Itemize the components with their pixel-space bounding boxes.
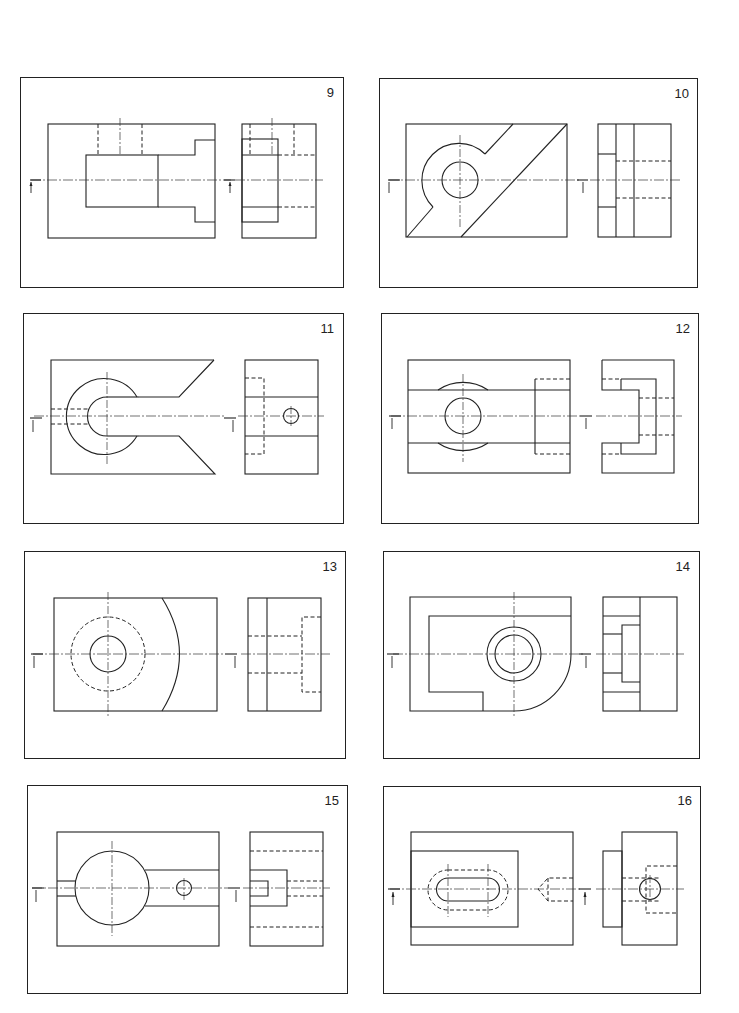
- front-view: [390, 832, 582, 945]
- front-view: [33, 592, 225, 718]
- section-marker-right: [225, 654, 237, 668]
- section-marker-left: [388, 889, 400, 905]
- side-view: [241, 598, 330, 711]
- technical-drawing: [25, 552, 347, 760]
- technical-drawing: [21, 78, 345, 289]
- section-marker-left: [388, 180, 400, 193]
- section-marker-right: [577, 180, 588, 193]
- front-view: [393, 592, 584, 718]
- front-view: [389, 124, 580, 237]
- side-view: [596, 832, 684, 945]
- section-marker-right: [579, 654, 591, 668]
- technical-drawing: [24, 314, 345, 525]
- exercise-panel-14: 14: [383, 551, 700, 759]
- section-marker-right: [579, 889, 591, 905]
- section-marker-left: [30, 418, 42, 432]
- front-view: [391, 360, 580, 473]
- section-marker-left: [31, 654, 43, 668]
- exercise-panel-9: 9: [20, 77, 344, 288]
- exercise-panel-13: 13: [24, 551, 346, 759]
- front-view: [32, 832, 228, 946]
- side-view: [596, 360, 682, 473]
- exercise-panel-11: 11: [23, 313, 344, 524]
- side-view: [238, 360, 324, 474]
- exercise-panel-12: 12: [381, 313, 699, 524]
- section-marker-left: [32, 888, 44, 902]
- section-marker-right: [224, 180, 235, 193]
- front-view: [31, 118, 231, 238]
- exercise-panel-16: 16: [383, 786, 701, 994]
- technical-drawing: [384, 552, 701, 760]
- side-view: [235, 118, 323, 238]
- section-marker-right: [228, 888, 240, 902]
- front-view: [34, 360, 226, 474]
- side-view: [596, 597, 684, 711]
- section-marker-left: [30, 180, 42, 193]
- side-view: [243, 832, 330, 946]
- section-marker-right: [224, 418, 236, 432]
- section-marker-right: [580, 416, 592, 429]
- section-marker-left: [389, 416, 401, 429]
- exercise-panel-10: 10: [379, 78, 698, 288]
- section-marker-left: [387, 654, 399, 668]
- technical-drawing: [28, 786, 349, 995]
- exercise-panel-15: 15: [27, 785, 348, 994]
- technical-drawing: [384, 787, 702, 995]
- technical-drawing: [382, 314, 700, 525]
- side-view: [590, 124, 680, 237]
- technical-drawing: [380, 79, 699, 289]
